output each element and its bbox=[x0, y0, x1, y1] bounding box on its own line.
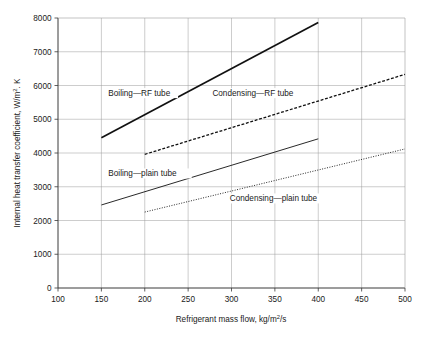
y-tick-label: 6000 bbox=[33, 82, 52, 91]
series-line bbox=[101, 22, 318, 137]
x-axis-title: Refrigerant mass flow, kg/m2/s bbox=[176, 314, 287, 324]
y-tick-label: 2000 bbox=[33, 217, 52, 226]
data-series-group bbox=[101, 22, 405, 212]
series-annotation-label: Boiling—plain tube bbox=[108, 169, 177, 178]
series-annotation-label: Condensing—RF tube bbox=[212, 89, 293, 98]
x-axis-ticks bbox=[58, 288, 405, 292]
x-tick-label: 250 bbox=[181, 295, 195, 304]
x-tick-label: 150 bbox=[95, 295, 109, 304]
series-annotations: Boiling—RF tubeCondensing—RF tubeBoiling… bbox=[107, 88, 327, 203]
x-tick-label: 400 bbox=[311, 295, 325, 304]
y-tick-label: 1000 bbox=[33, 250, 52, 259]
y-tick-label: 3000 bbox=[33, 183, 52, 192]
series-annotation-label: Condensing—plain tube bbox=[230, 194, 318, 203]
y-tick-label: 4000 bbox=[33, 149, 52, 158]
x-axis-tick-labels: 100150200250300350400450500 bbox=[51, 295, 412, 304]
x-tick-label: 200 bbox=[138, 295, 152, 304]
x-tick-label: 350 bbox=[268, 295, 282, 304]
x-tick-label: 500 bbox=[398, 295, 412, 304]
y-tick-label: 5000 bbox=[33, 115, 52, 124]
x-tick-label: 450 bbox=[355, 295, 369, 304]
y-axis-tick-labels: 010002000300040005000600070008000 bbox=[33, 14, 52, 293]
y-tick-label: 7000 bbox=[33, 48, 52, 57]
line-chart: 100150200250300350400450500 010002000300… bbox=[0, 0, 425, 338]
x-tick-label: 100 bbox=[51, 295, 65, 304]
y-tick-label: 8000 bbox=[33, 14, 52, 23]
chart-figure: 100150200250300350400450500 010002000300… bbox=[0, 0, 425, 338]
series-annotation-label: Boiling—RF tube bbox=[108, 89, 170, 98]
y-axis-ticks bbox=[55, 18, 59, 288]
x-tick-label: 300 bbox=[225, 295, 239, 304]
y-axis-title: Internal heat transfer coefficient, W/m2… bbox=[12, 78, 22, 228]
y-tick-label: 0 bbox=[47, 284, 52, 293]
